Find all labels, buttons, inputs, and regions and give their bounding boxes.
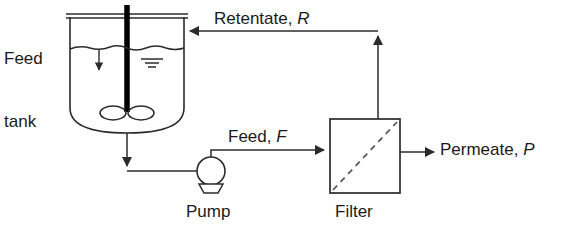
flowsheet-drawing [0,0,582,237]
retentate-label-text: Retentate, [214,9,292,28]
impeller-blade-left [100,106,126,120]
feed-tank-label-line2: tank [4,111,43,132]
pump-discharge-riser [211,150,223,157]
filter-label: Filter [335,201,373,222]
retentate-label-symbol: R [297,9,309,28]
feed-tank-label: Feed tank [4,6,43,174]
feed-label-text: Feed, [228,127,271,146]
pump-symbol [193,157,225,193]
retentate-stream-line [190,31,378,119]
permeate-stream-label: Permeate, P [440,139,535,160]
membrane-filter-symbol [330,119,400,193]
tank-outlet-line [127,133,193,171]
process-flow-diagram: Feed tank Retentate, R Feed, F Permeate,… [0,0,582,237]
feed-tank-label-line1: Feed [4,48,43,69]
feed-stream-label: Feed, F [228,126,287,147]
feed-tank-vessel [66,5,188,133]
feed-label-symbol: F [276,127,286,146]
permeate-label-symbol: P [523,140,534,159]
retentate-stream-label: Retentate, R [214,8,309,29]
impeller-blade-right [128,106,154,120]
pump-base [199,184,223,193]
pump-body [197,157,225,185]
liquid-level-icon [141,59,163,67]
pump-label: Pump [186,201,230,222]
permeate-label-text: Permeate, [440,140,518,159]
